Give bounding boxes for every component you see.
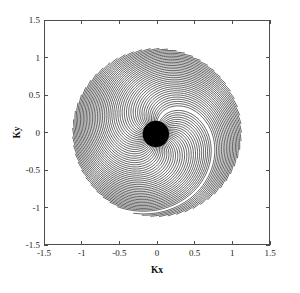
y-tick-label: 0.5 xyxy=(29,90,41,100)
x-tick-label: -0.5 xyxy=(112,248,127,258)
x-tick-label: -1 xyxy=(78,248,86,258)
plot-canvas: -1.5-1-0.500.511.51.510.50-0.5-1-1.5 Kx … xyxy=(0,0,300,293)
kspace-center-blob xyxy=(143,121,169,147)
y-tick-label: 1.5 xyxy=(29,15,41,25)
y-tick-label: 1 xyxy=(36,53,41,63)
y-tick-label: 0 xyxy=(36,128,41,138)
x-axis-title: Kx xyxy=(151,265,163,275)
y-axis-title: Ky xyxy=(12,126,22,138)
x-tick-label: 0 xyxy=(155,248,160,258)
y-tick-label: -0.5 xyxy=(26,165,41,175)
figure-container: -1.5-1-0.500.511.51.510.50-0.5-1-1.5 Kx … xyxy=(0,0,300,293)
x-tick-label: 0.5 xyxy=(189,248,201,258)
x-tick-label: 1 xyxy=(230,248,235,258)
y-tick-label: -1.5 xyxy=(26,240,41,250)
trajectory-arc xyxy=(75,127,195,199)
x-tick-label: 1.5 xyxy=(264,248,276,258)
trajectory-arc xyxy=(73,128,189,195)
y-tick-label: -1 xyxy=(33,203,41,213)
